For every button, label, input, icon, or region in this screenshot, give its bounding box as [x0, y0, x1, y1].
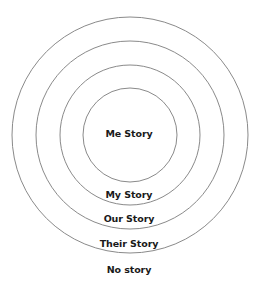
label-their-story: Their Story [0, 238, 258, 250]
label-my-story: My Story [0, 189, 258, 201]
label-me-story: Me Story [0, 128, 258, 140]
concentric-story-diagram: Me Story My Story Our Story Their Story … [0, 0, 258, 290]
label-our-story: Our Story [0, 213, 258, 225]
label-no-story: No story [0, 264, 258, 276]
